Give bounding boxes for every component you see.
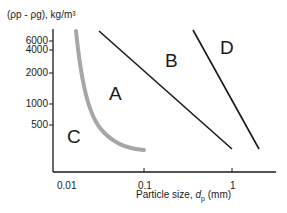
y-axis-title: (ρp - ρg), kg/m³	[7, 9, 76, 20]
y-tick-label: 500	[4, 119, 48, 130]
region-b-label: B	[165, 50, 178, 72]
y-tick-label: 1000	[4, 98, 48, 109]
region-d-label: D	[220, 37, 234, 59]
region-a-label: A	[109, 83, 122, 105]
x-axis-title-unit: (mm)	[205, 189, 231, 200]
y-tick-label: 2000	[4, 67, 48, 78]
x-tick-label: 0.01	[57, 180, 76, 191]
x-axis-title-text: Particle size,	[136, 189, 195, 200]
x-axis-title: Particle size, dp (mm)	[136, 189, 231, 202]
y-tick-label: 4000	[4, 44, 48, 55]
region-c-label: C	[67, 126, 81, 148]
